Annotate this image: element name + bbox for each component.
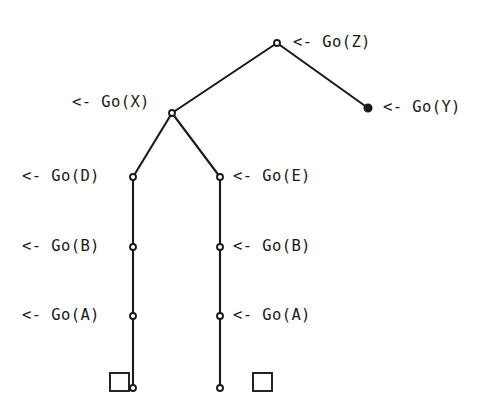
tree-node-l2 (217, 385, 223, 391)
tree-node-b2 (217, 244, 223, 250)
tree-node-l1 (130, 385, 136, 391)
tree-node-x (169, 110, 175, 116)
goal-left-marker (110, 373, 129, 391)
node-label-y: <- Go(Y) (383, 100, 461, 116)
node-label-z: <- Go(Z) (293, 35, 371, 51)
node-label-b2: <- Go(B) (233, 239, 311, 255)
tree-node-a1 (130, 313, 136, 319)
tree-edge-z-x (172, 43, 277, 113)
search-tree-diagram: <- Go(Z)<- Go(X)<- Go(Y)<- Go(D)<- Go(E)… (0, 0, 500, 413)
tree-edge-z-y (277, 43, 368, 108)
node-label-x: <- Go(X) (72, 95, 150, 111)
node-label-d: <- Go(D) (22, 169, 100, 185)
tree-node-z (274, 40, 280, 46)
tree-node-b1 (130, 244, 136, 250)
tree-node-e (217, 174, 223, 180)
node-label-a1: <- Go(A) (22, 308, 100, 324)
tree-node-y (364, 104, 371, 111)
tree-node-d (130, 174, 136, 180)
node-label-e: <- Go(E) (233, 169, 311, 185)
tree-edge-x-e (172, 113, 220, 177)
node-label-b1: <- Go(B) (22, 239, 100, 255)
goal-right-marker (253, 373, 272, 391)
tree-node-a2 (217, 313, 223, 319)
tree-graphics (0, 0, 500, 413)
node-label-a2: <- Go(A) (233, 308, 311, 324)
tree-edge-x-d (133, 113, 172, 177)
nodes-layer (130, 40, 372, 391)
edges-layer (133, 43, 368, 388)
